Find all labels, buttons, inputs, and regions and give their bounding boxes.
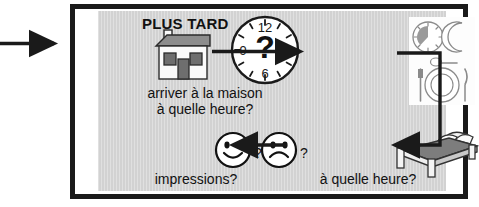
- svg-text:?: ?: [255, 29, 275, 65]
- house-caption-line1: arriver à la maison: [110, 85, 300, 101]
- dinner-place-setting-icon: [409, 17, 475, 105]
- svg-text:6: 6: [261, 66, 268, 81]
- frame-border-bottom: [70, 194, 468, 199]
- clock-question-icon: 12 3 6 9 ?: [228, 13, 302, 87]
- bed-caption-line1: à quelle heure?: [293, 171, 443, 187]
- frame-border-top: [70, 4, 468, 9]
- house-icon: [153, 28, 213, 80]
- diagram-panel: PLUS TARD: [98, 11, 446, 191]
- sad-face-icon: [260, 131, 298, 169]
- happy-face-icon: [214, 131, 252, 169]
- svg-text:3: 3: [283, 43, 290, 58]
- sad-face-question-mark: ?: [300, 145, 308, 161]
- svg-text:9: 9: [239, 43, 246, 58]
- house-caption-line2: à quelle heure?: [110, 101, 300, 117]
- bed-caption: à quelle heure?: [293, 171, 443, 187]
- impressions-caption: impressions?: [116, 171, 276, 187]
- frame-border-left: [70, 4, 75, 199]
- impressions-caption-line1: impressions?: [116, 171, 276, 187]
- house-caption: arriver à la maison à quelle heure?: [110, 85, 300, 117]
